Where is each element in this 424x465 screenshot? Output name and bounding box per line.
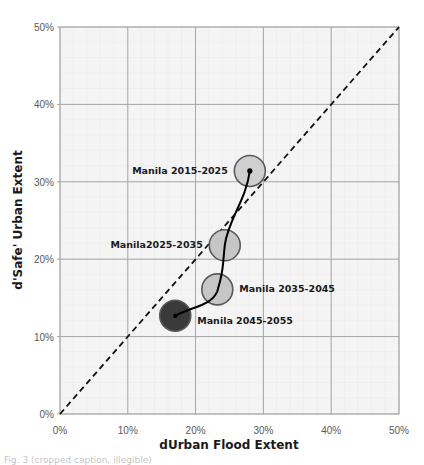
x-axis-title: dUrban Flood Extent bbox=[159, 438, 299, 452]
bubble-chart: 0%10%20%30%40%50% 0%10%20%30%40%50% Mani… bbox=[0, 0, 424, 465]
y-tick-label: 10% bbox=[34, 332, 54, 343]
y-tick-label: 20% bbox=[34, 254, 54, 265]
y-tick-label: 0% bbox=[40, 409, 55, 420]
y-axis-ticks: 0%10%20%30%40%50% bbox=[34, 22, 60, 420]
end-marker bbox=[173, 314, 177, 318]
plot-area bbox=[60, 27, 399, 414]
y-tick-label: 30% bbox=[34, 177, 54, 188]
point-label: Manila2025-2035 bbox=[110, 239, 202, 250]
y-tick-label: 40% bbox=[34, 99, 54, 110]
point-label: Manila 2035-2045 bbox=[239, 283, 335, 294]
start-marker bbox=[247, 168, 252, 173]
x-tick-label: 30% bbox=[253, 425, 273, 436]
y-axis-title: d'Safe' Urban Extent bbox=[11, 150, 25, 290]
point-label: Manila 2015-2025 bbox=[132, 165, 228, 176]
x-tick-label: 20% bbox=[186, 425, 206, 436]
x-tick-label: 0% bbox=[53, 425, 68, 436]
y-tick-label: 50% bbox=[34, 22, 54, 33]
x-axis-ticks: 0%10%20%30%40%50% bbox=[53, 425, 409, 436]
point-label: Manila 2045-2055 bbox=[197, 315, 293, 326]
x-tick-label: 40% bbox=[321, 425, 341, 436]
x-tick-label: 50% bbox=[389, 425, 409, 436]
figure-caption: Fig. 3 (cropped caption, illegible) bbox=[4, 455, 152, 465]
x-tick-label: 10% bbox=[118, 425, 138, 436]
